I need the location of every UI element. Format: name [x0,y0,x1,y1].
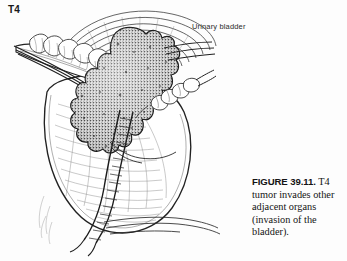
pelvic-floor-fine [39,196,52,244]
caption-figure-number: FIGURE 39.11. [252,176,316,187]
urinary-bladder-label: Urinary bladder [192,22,246,31]
figure-caption: FIGURE 39.11. T4 tumor invades other adj… [252,176,347,239]
stage-label: T4 [8,4,20,15]
figure-illustration: T4 Urinary bladder FIGURE 39.11. T4 tumo… [0,0,347,261]
anal-canal [70,240,96,256]
